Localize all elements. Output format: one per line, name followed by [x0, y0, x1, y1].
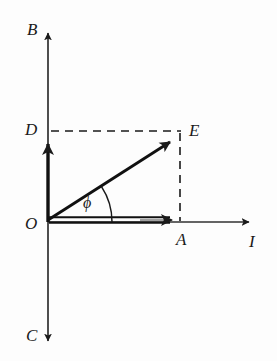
label-origin: O	[25, 215, 37, 232]
phasor-diagram: B D E ϕ O A I C	[0, 0, 277, 361]
label-axis-c: C	[26, 327, 37, 344]
label-axis-i: I	[249, 233, 255, 250]
label-axis-b: B	[27, 21, 37, 38]
diagram-canvas	[0, 0, 277, 361]
label-point-a: A	[176, 231, 186, 248]
vector-oe	[48, 142, 170, 220]
label-angle-phi: ϕ	[83, 195, 91, 211]
label-point-e: E	[189, 122, 199, 139]
label-point-d: D	[25, 121, 37, 138]
